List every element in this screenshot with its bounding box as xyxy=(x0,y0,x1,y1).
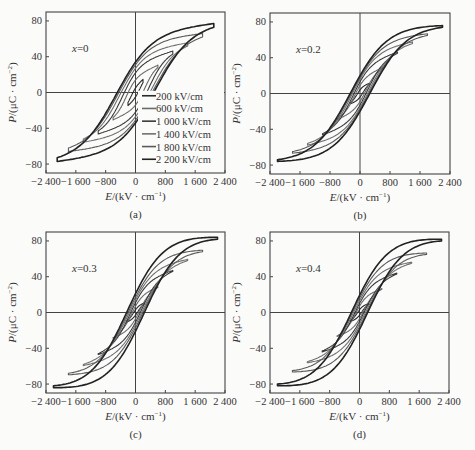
x-tick-label: 1 600 xyxy=(183,396,207,407)
y-tick-label: 80 xyxy=(256,235,267,246)
x-tick-label: −1 600 xyxy=(61,396,91,407)
x-tick-label: 0 xyxy=(357,396,362,407)
y-axis-title: P/(μC · cm−2) xyxy=(6,282,19,344)
y-tick-label: 0 xyxy=(37,307,42,318)
y-tick-label: 80 xyxy=(32,235,43,246)
y-tick-label: −40 xyxy=(250,343,266,354)
y-tick-label: −40 xyxy=(250,124,266,135)
composition-label: x=0 xyxy=(71,42,89,54)
x-tick-label: 2 400 xyxy=(437,396,461,407)
x-axis-title: E/(kV · cm−1) xyxy=(104,190,166,203)
x-axis-title: E/(kV · cm−1) xyxy=(104,410,166,423)
y-tick-label: 40 xyxy=(32,271,43,282)
legend-entry: 600 kV/cm xyxy=(156,103,203,114)
y-tick-label: −80 xyxy=(250,160,266,171)
x-tick-label: −2 400 xyxy=(255,396,285,407)
y-axis-title: P/(μC · cm−2) xyxy=(230,63,243,125)
x-tick-label: 2 400 xyxy=(438,177,462,188)
x-tick-label: −2 400 xyxy=(255,177,285,188)
x-tick-label: −800 xyxy=(319,396,341,407)
y-tick-label: −80 xyxy=(26,159,42,170)
composition-label: x=0.2 xyxy=(295,43,321,55)
y-axis-title: P/(μC · cm−2) xyxy=(230,282,243,344)
legend-entry: 1 400 kV/cm xyxy=(156,129,211,140)
y-tick-label: −40 xyxy=(26,123,42,134)
x-tick-label: 2 400 xyxy=(213,396,237,407)
y-tick-label: 80 xyxy=(32,15,43,26)
legend-entry: 1 800 kV/cm xyxy=(156,142,211,153)
y-tick-label: 0 xyxy=(261,307,266,318)
x-tick-label: 1 600 xyxy=(183,176,207,187)
composition-label: x=0.3 xyxy=(71,262,97,274)
x-tick-label: −1 600 xyxy=(61,176,91,187)
y-axis-title: P/(μC · cm−2) xyxy=(6,62,19,124)
y-tick-label: −80 xyxy=(250,379,266,390)
x-axis-title: E/(kV · cm−1) xyxy=(329,191,391,204)
panel-d: −80−4004080−2 400−1 600−80008001 6002 40… xyxy=(230,232,461,441)
x-tick-label: 800 xyxy=(157,396,173,407)
x-tick-label: 2 400 xyxy=(213,176,237,187)
legend-entry: 200 kV/cm xyxy=(156,91,203,102)
x-tick-label: 1 600 xyxy=(408,177,432,188)
panel-label: (a) xyxy=(129,208,142,221)
x-tick-label: −800 xyxy=(319,177,341,188)
y-tick-label: 80 xyxy=(256,16,267,27)
x-tick-label: 800 xyxy=(382,177,398,188)
legend-entry: 1 000 kV/cm xyxy=(156,116,211,127)
y-tick-label: 40 xyxy=(256,52,267,63)
x-tick-label: −2 400 xyxy=(31,396,61,407)
panel-c: −80−4004080−2 400−1 600−80008001 6002 40… xyxy=(6,232,237,441)
panel-b: −80−4004080−2 400−1 600−80008001 6002 40… xyxy=(230,13,462,222)
composition-label: x=0.4 xyxy=(295,262,321,274)
x-tick-label: 0 xyxy=(357,177,362,188)
y-tick-label: −40 xyxy=(26,343,42,354)
x-tick-label: −1 600 xyxy=(285,396,315,407)
y-tick-label: 0 xyxy=(37,87,42,98)
x-axis-title: E/(kV · cm−1) xyxy=(328,410,390,423)
y-tick-label: 40 xyxy=(256,271,267,282)
panel-label: (c) xyxy=(129,428,142,441)
x-tick-label: −2 400 xyxy=(31,176,61,187)
x-tick-label: 0 xyxy=(133,176,138,187)
y-tick-label: 40 xyxy=(32,51,43,62)
legend: 200 kV/cm600 kV/cm1 000 kV/cm1 400 kV/cm… xyxy=(138,91,224,168)
x-tick-label: 0 xyxy=(133,396,138,407)
x-tick-label: −800 xyxy=(95,396,117,407)
x-tick-label: 800 xyxy=(157,176,173,187)
hysteresis-figure: −80−4004080−2 400−1 600−80008001 6002 40… xyxy=(0,0,475,450)
panel-a: −80−4004080−2 400−1 600−80008001 6002 40… xyxy=(6,12,237,221)
x-tick-label: −800 xyxy=(95,176,117,187)
panel-label: (d) xyxy=(353,428,366,441)
y-tick-label: −80 xyxy=(26,379,42,390)
y-tick-label: 0 xyxy=(261,88,266,99)
legend-entry: 2 200 kV/cm xyxy=(156,154,211,165)
x-tick-label: 800 xyxy=(381,396,397,407)
x-tick-label: −1 600 xyxy=(285,177,315,188)
x-tick-label: 1 600 xyxy=(407,396,431,407)
panel-label: (b) xyxy=(354,209,367,222)
